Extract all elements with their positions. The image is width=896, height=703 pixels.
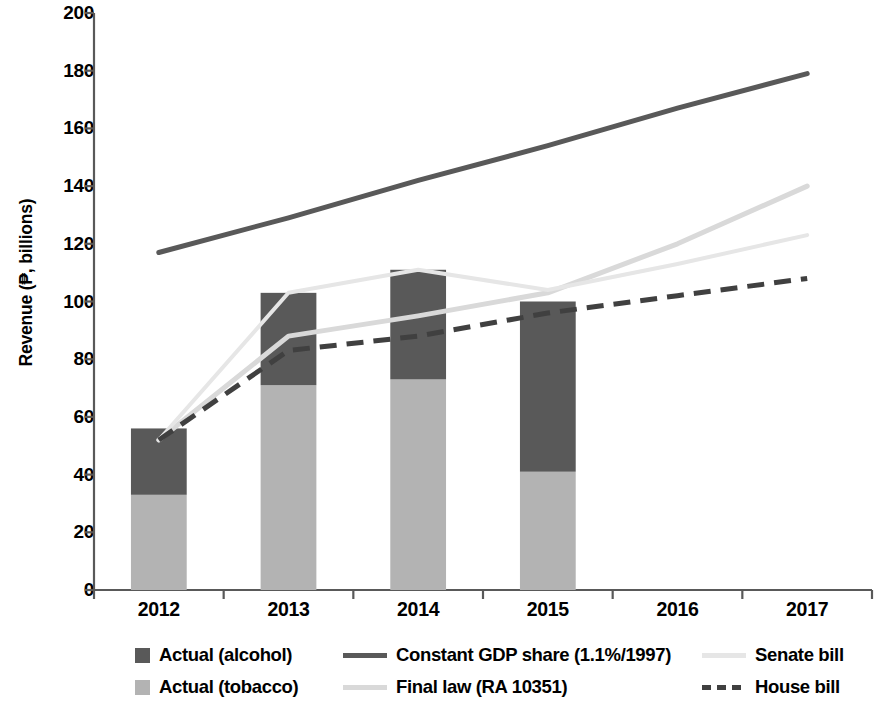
- chart-legend: Actual (alcohol) Constant GDP share (1.1…: [135, 642, 875, 700]
- bar-segment: [390, 270, 446, 380]
- legend-item-actual-tobacco[interactable]: Actual (tobacco): [135, 674, 298, 700]
- legend-swatch-box-icon: [135, 680, 150, 695]
- legend-item-actual-alcohol[interactable]: Actual (alcohol): [135, 642, 292, 668]
- x-tick-label: 2013: [267, 598, 309, 621]
- legend-swatch-box-icon: [135, 648, 150, 663]
- data-line: [159, 235, 807, 440]
- legend-item-constant-gdp-share[interactable]: Constant GDP share (1.1%/1997): [343, 642, 671, 668]
- x-tick-label: 2012: [138, 598, 180, 621]
- chart-figure: Revenue (₱, billions) 200180160140120100…: [0, 0, 896, 703]
- legend-label: Actual (alcohol): [159, 644, 292, 666]
- legend-label: Final law (RA 10351): [396, 676, 567, 698]
- legend-label: Actual (tobacco): [159, 676, 298, 698]
- bar-segment: [261, 385, 317, 590]
- lines-layer: [159, 74, 807, 440]
- legend-item-house-bill[interactable]: House bill: [702, 674, 840, 700]
- legend-label: Senate bill: [755, 644, 844, 666]
- x-tick-label: 2014: [397, 598, 439, 621]
- bar-segment: [131, 495, 187, 590]
- plot-area: [0, 0, 896, 703]
- legend-row-1: Actual (alcohol) Constant GDP share (1.1…: [135, 642, 875, 668]
- legend-item-senate-bill[interactable]: Senate bill: [702, 642, 844, 668]
- bar-segment: [520, 302, 576, 472]
- legend-swatch-line-icon: [343, 653, 387, 658]
- x-tick-label: 2015: [527, 598, 569, 621]
- legend-item-final-law[interactable]: Final law (RA 10351): [343, 674, 567, 700]
- x-tick-label: 2017: [786, 598, 828, 621]
- legend-swatch-line-icon: [702, 653, 746, 658]
- legend-swatch-dash-icon: [702, 685, 746, 690]
- x-tick-label: 2016: [656, 598, 698, 621]
- legend-label: House bill: [755, 676, 840, 698]
- legend-row-2: Actual (tobacco) Final law (RA 10351) Ho…: [135, 674, 875, 700]
- bar-segment: [520, 472, 576, 590]
- legend-swatch-line-icon: [343, 685, 387, 690]
- legend-label: Constant GDP share (1.1%/1997): [396, 644, 671, 666]
- data-line: [159, 74, 807, 253]
- bar-segment: [390, 379, 446, 590]
